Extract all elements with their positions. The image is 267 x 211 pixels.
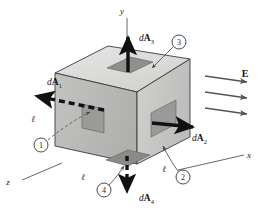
callout-4-leader — [109, 166, 124, 185]
x-axis-line — [178, 155, 244, 170]
dA4-subscript: 4 — [151, 198, 155, 205]
dA2-subscript: 2 — [204, 138, 207, 145]
z-axis-label: z — [5, 177, 10, 187]
ell-left-label: ℓ — [31, 114, 35, 124]
ell-bottom-left-label: ℓ — [81, 172, 85, 182]
physics-figure: y x z dA1 dA2 dA3 dA4 E 1 2 3 4 ℓ ℓ ℓ — [0, 0, 267, 211]
dA1-subscript: 1 — [59, 82, 62, 89]
dA3-subscript: 3 — [151, 38, 154, 45]
efield-arrow-2 — [205, 92, 247, 98]
figure-canvas: y x z dA1 dA2 dA3 dA4 E 1 2 3 4 ℓ ℓ ℓ — [0, 0, 267, 211]
x-axis-label: x — [246, 150, 251, 160]
dA3-label: dA3 — [139, 33, 154, 45]
callout-2-number: 2 — [181, 173, 185, 182]
efield-arrow-3 — [205, 108, 247, 114]
ell-bottom-right-label: ℓ — [162, 164, 166, 174]
efield-arrows — [205, 76, 247, 114]
dA2-label: dA2 — [192, 133, 207, 145]
callout-3-number: 3 — [177, 38, 181, 47]
dA4-label: dA4 — [139, 193, 155, 205]
z-axis-line — [22, 163, 62, 180]
y-axis-label: y — [119, 6, 124, 16]
callout-4-number: 4 — [102, 186, 106, 195]
callout-1-number: 1 — [39, 141, 43, 150]
efield-label: E — [242, 68, 249, 79]
